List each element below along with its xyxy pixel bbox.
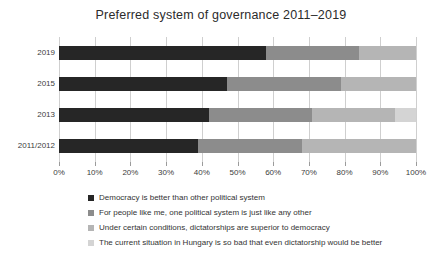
x-tick-label: 80% (328, 168, 362, 177)
plot-area (59, 37, 416, 162)
bar-segment-series-1 (227, 77, 341, 91)
y-axis-label: 2015 (3, 79, 55, 89)
x-tick-mark (380, 162, 381, 166)
x-tick-label: 30% (149, 168, 183, 177)
x-tick-label: 50% (221, 168, 255, 177)
bar-segment-series-3 (395, 108, 416, 122)
x-tick-label: 20% (113, 168, 147, 177)
x-tick-mark (345, 162, 346, 166)
gridline (416, 37, 417, 162)
y-axis-label: 2019 (3, 48, 55, 58)
legend-label: Under certain conditions, dictatorships … (99, 223, 330, 232)
bar-row (59, 46, 416, 60)
x-tick-mark (95, 162, 96, 166)
x-tick-mark (59, 162, 60, 166)
bar-segment-series-0 (59, 77, 227, 91)
bar-segment-series-1 (198, 139, 302, 153)
bar-segment-series-2 (359, 46, 416, 60)
bar-segment-series-0 (59, 108, 209, 122)
x-tick-label: 10% (78, 168, 112, 177)
x-tick-label: 100% (399, 168, 433, 177)
x-tick-mark (166, 162, 167, 166)
x-tick-mark (238, 162, 239, 166)
x-tick-label: 40% (185, 168, 219, 177)
x-tick-label: 0% (42, 168, 76, 177)
bar-row (59, 108, 416, 122)
x-tick-mark (202, 162, 203, 166)
bar-segment-series-1 (209, 108, 313, 122)
bar-row (59, 139, 416, 153)
legend-label: The current situation in Hungary is so b… (99, 238, 382, 247)
x-tick-label: 90% (363, 168, 397, 177)
legend-swatch (88, 195, 94, 201)
x-tick-mark (416, 162, 417, 166)
legend-item: For people like me, one political system… (88, 205, 382, 220)
bar-segment-series-0 (59, 46, 266, 60)
x-tick-mark (309, 162, 310, 166)
y-axis-label: 2013 (3, 110, 55, 120)
legend-swatch (88, 210, 94, 216)
bar-segment-series-0 (59, 139, 198, 153)
x-tick-label: 60% (256, 168, 290, 177)
x-tick-mark (273, 162, 274, 166)
legend: Democracy is better than other political… (88, 190, 382, 250)
legend-item: The current situation in Hungary is so b… (88, 235, 382, 250)
legend-swatch (88, 240, 94, 246)
chart-title: Preferred system of governance 2011–2019 (0, 8, 442, 22)
x-tick-mark (130, 162, 131, 166)
bar-segment-series-2 (302, 139, 416, 153)
chart-canvas: Preferred system of governance 2011–2019… (0, 0, 442, 257)
legend-label: Democracy is better than other political… (99, 193, 265, 202)
x-tick-label: 70% (292, 168, 326, 177)
y-axis-label: 2011/2012 (3, 141, 55, 151)
bar-segment-series-2 (312, 108, 394, 122)
legend-item: Democracy is better than other political… (88, 190, 382, 205)
legend-label: For people like me, one political system… (99, 208, 312, 217)
bar-segment-series-1 (266, 46, 359, 60)
legend-item: Under certain conditions, dictatorships … (88, 220, 382, 235)
bar-segment-series-2 (341, 77, 416, 91)
legend-swatch (88, 225, 94, 231)
bar-row (59, 77, 416, 91)
